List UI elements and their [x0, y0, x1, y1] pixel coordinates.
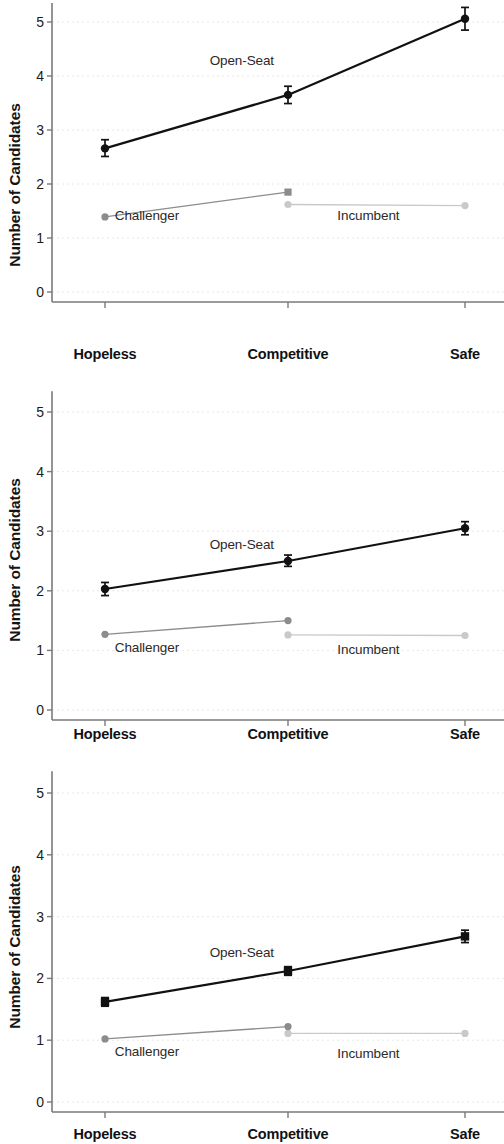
series-annotation-incumbent: Incumbent [337, 1045, 399, 1060]
series-line-open-seat [288, 19, 465, 95]
data-point-marker [284, 967, 292, 975]
data-point-marker [101, 631, 108, 638]
y-tick-label-5: 5 [20, 785, 44, 801]
x-tick-label-competitive: Competitive [248, 1126, 329, 1142]
data-point-marker [461, 202, 468, 209]
series-line-incumbent [288, 205, 465, 206]
data-point-marker [461, 15, 469, 23]
x-tick-label-hopeless: Hopeless [74, 1126, 137, 1142]
y-tick-label-0: 0 [20, 702, 44, 718]
data-point-marker [101, 213, 108, 220]
chart-panel-3: Number of Candidates012345HopelessCompet… [0, 750, 504, 1144]
y-tick-label-5: 5 [20, 404, 44, 420]
series-annotation-openseat: Open-Seat [210, 52, 274, 67]
data-point-marker [101, 998, 109, 1006]
data-point-marker [101, 1035, 108, 1042]
y-tick-label-4: 4 [20, 847, 44, 863]
series-line-open-seat [105, 95, 288, 148]
series-line-open-seat [288, 528, 465, 561]
data-point-marker [461, 632, 468, 639]
data-point-marker [284, 189, 291, 196]
data-point-marker [101, 144, 109, 152]
x-tick-label-safe: Safe [450, 1126, 480, 1142]
series-line-open-seat [105, 561, 288, 589]
data-point-marker [284, 1023, 291, 1030]
data-point-marker [284, 617, 291, 624]
series-annotation-challenger: Challenger [115, 639, 179, 654]
data-point-marker [461, 524, 469, 532]
y-tick-label-2: 2 [20, 970, 44, 986]
x-tick-label-safe: Safe [450, 346, 480, 362]
series-annotation-incumbent: Incumbent [337, 641, 399, 656]
series-line-open-seat [288, 936, 465, 971]
y-tick-label-1: 1 [20, 642, 44, 658]
x-tick-label-competitive: Competitive [248, 346, 329, 362]
series-annotation-openseat: Open-Seat [210, 537, 274, 552]
series-line-challenger [105, 1027, 288, 1039]
y-tick-label-3: 3 [20, 122, 44, 138]
x-tick-label-competitive: Competitive [248, 726, 329, 742]
x-tick-label-safe: Safe [450, 726, 480, 742]
x-tick-label-hopeless: Hopeless [74, 726, 137, 742]
y-tick-label-1: 1 [20, 1032, 44, 1048]
data-point-marker [284, 201, 291, 208]
series-line-incumbent [288, 635, 465, 636]
data-point-marker [461, 1030, 468, 1037]
series-annotation-challenger: Challenger [115, 1044, 179, 1059]
y-tick-label-3: 3 [20, 909, 44, 925]
data-point-marker [284, 631, 291, 638]
y-tick-label-3: 3 [20, 523, 44, 539]
series-annotation-challenger: Challenger [115, 208, 179, 223]
y-tick-label-4: 4 [20, 68, 44, 84]
series-annotation-incumbent: Incumbent [337, 208, 399, 223]
y-tick-label-0: 0 [20, 1094, 44, 1110]
series-annotation-openseat: Open-Seat [210, 945, 274, 960]
y-tick-label-4: 4 [20, 464, 44, 480]
series-line-open-seat [105, 971, 288, 1002]
chart-panel-1: Number of Candidates012345HopelessCompet… [0, 0, 504, 370]
y-tick-label-1: 1 [20, 230, 44, 246]
data-point-marker [284, 91, 292, 99]
data-point-marker [101, 585, 109, 593]
y-tick-label-2: 2 [20, 583, 44, 599]
y-tick-label-5: 5 [20, 14, 44, 30]
plot-area [0, 370, 504, 750]
y-tick-label-2: 2 [20, 176, 44, 192]
series-line-challenger [105, 621, 288, 635]
data-point-marker [284, 1030, 291, 1037]
x-tick-label-hopeless: Hopeless [74, 346, 137, 362]
chart-panel-2: Number of Candidates012345HopelessCompet… [0, 370, 504, 750]
data-point-marker [284, 557, 292, 565]
data-point-marker [461, 932, 469, 940]
y-tick-label-0: 0 [20, 284, 44, 300]
